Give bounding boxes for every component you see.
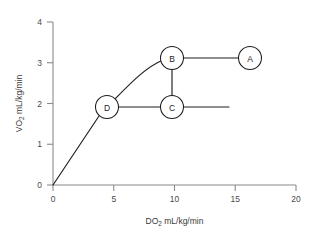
node-b[interactable]: B [161, 47, 184, 70]
node-a-label: A [247, 54, 253, 64]
y-axis-ticks [47, 22, 53, 185]
x-axis-tick-labels: 0 5 10 15 20 [51, 194, 301, 204]
x-axis-title-rest: mL/kg/min [162, 216, 204, 226]
series-ramp-origin-to-d [53, 110, 103, 185]
x-axis-title-main: DO [146, 216, 159, 226]
oxygen-delivery-consumption-chart: 0 1 2 3 4 0 5 10 15 20 DO2 mL/kg/min [0, 0, 326, 236]
y-axis-title-main: VO [14, 120, 24, 133]
x-axis-title: DO2 mL/kg/min [146, 216, 204, 227]
node-c-label: C [169, 103, 175, 113]
y-tick-label-3: 3 [37, 58, 42, 68]
chart-canvas: 0 1 2 3 4 0 5 10 15 20 DO2 mL/kg/min [0, 0, 326, 236]
node-a[interactable]: A [239, 47, 262, 70]
node-c[interactable]: C [161, 96, 184, 119]
y-axis-title-rest: mL/kg/min [14, 75, 24, 117]
y-axis-title: VO2 mL/kg/min [14, 75, 25, 133]
y-axis-tick-labels: 0 1 2 3 4 [37, 17, 42, 190]
series-curve-d-to-b [111, 60, 163, 103]
x-tick-label-15: 15 [231, 194, 241, 204]
y-tick-label-1: 1 [37, 139, 42, 149]
node-markers-group: A B C D [96, 47, 262, 119]
x-tick-label-0: 0 [51, 194, 56, 204]
x-tick-label-20: 20 [291, 194, 301, 204]
x-tick-label-10: 10 [170, 194, 180, 204]
y-tick-label-0: 0 [37, 180, 42, 190]
x-tick-label-5: 5 [111, 194, 116, 204]
data-series-group [53, 58, 239, 185]
y-tick-label-4: 4 [37, 17, 42, 27]
node-d-label: D [104, 103, 110, 113]
node-d[interactable]: D [96, 96, 119, 119]
node-b-label: B [169, 54, 175, 64]
x-axis-ticks [53, 185, 296, 191]
y-tick-label-2: 2 [37, 99, 42, 109]
